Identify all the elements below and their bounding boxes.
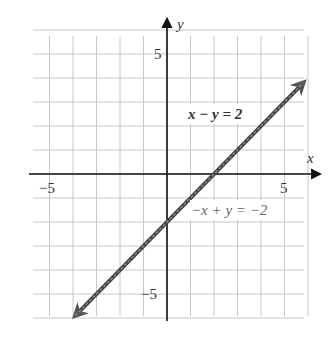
x-tick-5: 5 (280, 180, 288, 196)
equation-label-x-minus-y: x − y = 2 (187, 106, 243, 122)
equation-label-neg-x-plus-y: −x + y = −2 (191, 202, 268, 218)
x-tick-neg5: −5 (39, 180, 55, 196)
y-tick-neg5: −5 (141, 286, 157, 302)
coordinate-plane: x y −5 5 5 −5 x − y = 2 −x + y = −2 (0, 0, 335, 340)
y-axis-label: y (175, 16, 184, 32)
x-axis-label: x (306, 150, 314, 166)
y-tick-5: 5 (154, 46, 162, 62)
